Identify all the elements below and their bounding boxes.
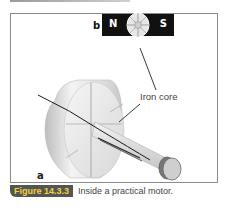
rotor-cross-section-icon	[126, 12, 150, 38]
north-pole-label: N	[109, 18, 117, 29]
figure-caption: Figure 14.3.3 Inside a practical motor.	[10, 184, 173, 197]
label-a: a	[37, 170, 44, 181]
caption-text: Inside a practical motor.	[78, 186, 173, 196]
label-b: b	[93, 20, 100, 31]
south-pole-label: S	[160, 18, 167, 29]
figure-number-badge: Figure 14.3.3	[10, 185, 73, 197]
iron-core-label: Iron core	[140, 91, 178, 102]
bar-magnet: N S	[102, 14, 174, 36]
